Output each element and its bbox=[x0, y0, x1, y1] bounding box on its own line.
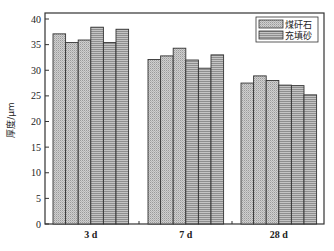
legend-swatch-filling-sand bbox=[259, 31, 283, 39]
y-tick-label: 30 bbox=[31, 65, 41, 76]
legend-swatch-gangue bbox=[259, 20, 283, 28]
y-tick-label: 0 bbox=[36, 219, 41, 230]
bar bbox=[78, 40, 91, 224]
bar bbox=[103, 43, 116, 224]
bar bbox=[198, 68, 211, 224]
y-tick-label: 5 bbox=[36, 193, 41, 204]
bar bbox=[161, 56, 174, 224]
bar bbox=[266, 81, 279, 225]
bar bbox=[116, 29, 129, 224]
y-tick-label: 40 bbox=[31, 14, 41, 25]
y-tick-label: 25 bbox=[31, 90, 41, 101]
bar bbox=[291, 86, 304, 224]
legend: 煤矸石 充填砂 bbox=[256, 17, 318, 42]
bar bbox=[53, 34, 66, 224]
legend-label-filling-sand: 充填砂 bbox=[285, 30, 312, 41]
bar bbox=[211, 55, 224, 224]
y-tick-label: 15 bbox=[31, 142, 41, 153]
bar bbox=[173, 48, 186, 224]
bar bbox=[241, 83, 254, 224]
y-tick-label: 10 bbox=[31, 167, 41, 178]
x-category-label: 28 d bbox=[270, 229, 289, 240]
y-tick-label: 20 bbox=[31, 116, 41, 127]
legend-label-gangue: 煤矸石 bbox=[285, 19, 312, 30]
bar bbox=[66, 43, 79, 224]
y-axis-title: 厚度/μm bbox=[5, 102, 16, 138]
x-category-label: 7 d bbox=[179, 229, 193, 240]
bar bbox=[279, 85, 292, 224]
bar bbox=[304, 95, 317, 224]
bar bbox=[91, 27, 104, 224]
x-category-label: 3 d bbox=[84, 229, 98, 240]
bar bbox=[148, 59, 161, 224]
bar-chart: 0510152025303540 3 d7 d28 d 厚度/μm 煤矸石 充填… bbox=[0, 0, 334, 251]
bar bbox=[186, 60, 199, 224]
y-tick-label: 35 bbox=[31, 39, 41, 50]
bar bbox=[254, 76, 267, 224]
